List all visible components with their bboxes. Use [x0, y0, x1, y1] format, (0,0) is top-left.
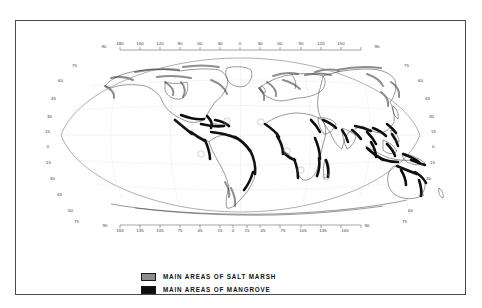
right-lat-label-3: 15	[431, 129, 436, 134]
bot-lon-label-0: 90	[103, 223, 108, 228]
right-lat-extra-1: 75	[402, 219, 407, 224]
top-lon-label-4: 90	[178, 41, 183, 46]
left-lat-label-3: 15	[45, 129, 50, 134]
left-lat-label-1: 45	[51, 96, 56, 101]
bot-lon-label-1: 165	[116, 228, 124, 233]
bot-lon-label-11: 105	[299, 228, 307, 233]
top-lon-label-3: 120	[156, 41, 164, 46]
top-lon-label-0: 90	[102, 44, 107, 49]
top-lon-label-8: 30	[258, 41, 263, 46]
mangrove-label: MAIN AREAS OF MANGROVE	[163, 286, 271, 294]
right-lat-label-0: 60	[418, 78, 423, 83]
mangrove-regions	[175, 115, 426, 196]
map-gridlines	[61, 58, 420, 212]
top-longitude-axis: 90 180 150 120 90 60 30 0 30 60 90 120 1…	[102, 41, 380, 50]
bot-lon-label-3: 105	[156, 228, 164, 233]
left-lat-label-7: 45	[57, 192, 62, 197]
bot-lon-label-10: 75	[281, 228, 286, 233]
bot-lon-label-13: 165	[341, 228, 349, 233]
right-lat-label-2: 30	[429, 114, 434, 119]
top-lon-label-11: 120	[317, 41, 325, 46]
top-lon-label-7: 0	[239, 41, 242, 46]
bot-lon-label-9: 45	[261, 228, 266, 233]
right-lat-label-6: 30	[426, 176, 431, 181]
legend-item-salt-marsh: MAIN AREAS OF SALT MARSH	[141, 272, 361, 282]
map-legend: MAIN AREAS OF SALT MARSH MAIN AREAS OF M…	[141, 272, 361, 298]
bottom-longitude-axis: 90 165 135 105 75 45 15 0 15 45 75 105 1…	[103, 223, 370, 233]
right-lat-label-8: 60	[408, 208, 413, 213]
right-lat-label-5: 15	[430, 160, 435, 165]
mangrove-swatch	[141, 286, 156, 294]
legend-item-mangrove: MAIN AREAS OF MANGROVE	[141, 285, 361, 295]
top-lon-label-12: 150	[337, 41, 345, 46]
left-lat-label-4: 0	[47, 144, 50, 149]
bot-lon-label-8: 15	[245, 228, 250, 233]
map-area: 90 180 150 120 90 60 30 0 30 60 90 120 1…	[15, 20, 466, 250]
top-lon-label-10: 90	[299, 41, 304, 46]
right-lat-label-7: 45	[419, 192, 424, 197]
left-lat-label-5: 15	[46, 160, 51, 165]
left-lat-label-2: 30	[47, 114, 52, 119]
right-lat-extra-0: 75	[404, 63, 409, 68]
left-lat-extra-0: 75	[72, 63, 77, 68]
left-lat-label-8: 60	[68, 208, 73, 213]
right-lat-label-4: 0	[432, 144, 435, 149]
top-lon-label-13: 90	[375, 44, 380, 49]
bot-lon-label-4: 75	[178, 228, 183, 233]
left-lat-label-6: 30	[50, 176, 55, 181]
top-lon-label-5: 60	[198, 41, 203, 46]
salt-marsh-regions	[105, 66, 399, 207]
salt-marsh-label: MAIN AREAS OF SALT MARSH	[163, 273, 276, 281]
right-latitude-axis: 75 60 45 30 15 0 15 30 45 60 75	[402, 63, 436, 224]
top-lon-label-6: 30	[218, 41, 223, 46]
top-lon-label-1: 180	[116, 41, 124, 46]
bot-lon-label-7: 0	[232, 228, 235, 233]
right-lat-label-1: 45	[425, 96, 430, 101]
bot-lon-label-5: 45	[198, 228, 203, 233]
top-lon-label-2: 150	[136, 41, 144, 46]
left-latitude-axis: 75 60 45 30 15 0 15 30 45 60 75	[45, 63, 79, 224]
top-lon-label-9: 60	[278, 41, 283, 46]
bot-lon-label-14: 90	[365, 223, 370, 228]
salt-marsh-swatch	[141, 273, 156, 281]
bot-lon-label-2: 135	[136, 228, 144, 233]
figure-container: 90 180 150 120 90 60 30 0 30 60 90 120 1…	[0, 0, 482, 308]
world-map-svg: 90 180 150 120 90 60 30 0 30 60 90 120 1…	[15, 20, 466, 250]
bot-lon-label-12: 135	[319, 228, 327, 233]
left-lat-extra-1: 75	[74, 219, 79, 224]
bot-lon-label-6: 15	[218, 228, 223, 233]
left-lat-label-0: 60	[58, 78, 63, 83]
